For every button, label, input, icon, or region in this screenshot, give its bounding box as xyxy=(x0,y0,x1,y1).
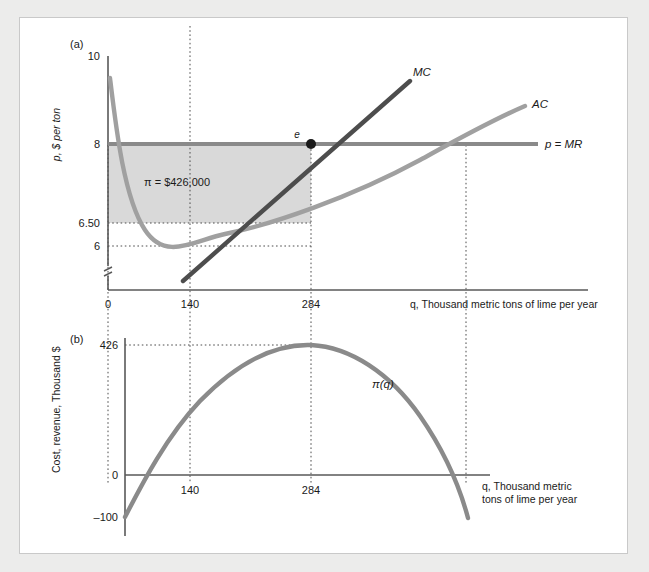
panel-a-xtick-140: 140 xyxy=(181,298,199,310)
price-mr-label: p = MR xyxy=(544,138,582,150)
panel-a-ytick-650: 6.50 xyxy=(79,217,100,229)
panel-b-x-axis-title-line2: tons of lime per year xyxy=(482,493,578,505)
equilibrium-point-label: e xyxy=(294,129,300,140)
panel-b: (b) Cost, revenue, Thousand $ 426 0 –100… xyxy=(50,333,578,536)
panel-a-xtick-0: 0 xyxy=(105,298,111,310)
panel-a-y-axis-title: p, $ per ton xyxy=(50,108,62,162)
equilibrium-point-marker xyxy=(306,139,316,149)
panel-b-ytick-426: 426 xyxy=(100,339,118,351)
panel-a-ytick-8: 8 xyxy=(94,138,100,150)
panel-a-ytick-6: 6 xyxy=(94,240,100,252)
panel-b-letter: (b) xyxy=(70,333,83,345)
profit-annotation: π = $426,000 xyxy=(144,176,210,188)
horizontal-guide-lines xyxy=(108,223,311,246)
mc-curve-label: MC xyxy=(413,66,432,78)
economics-figure: e (a) p, $ per ton 10 8 6.50 6 0 140 284… xyxy=(20,18,627,553)
ac-curve-label: AC xyxy=(531,98,549,110)
panel-b-x-axis-title-line1: q, Thousand metric xyxy=(482,480,572,492)
panel-b-ytick-0: 0 xyxy=(112,469,118,481)
panel-b-xtick-284: 284 xyxy=(302,484,320,496)
panel-a-x-axis-title: q, Thousand metric tons of lime per year xyxy=(410,298,598,310)
panel-b-xtick-140: 140 xyxy=(181,484,199,496)
panel-a-letter: (a) xyxy=(70,38,83,50)
panel-a-xtick-284: 284 xyxy=(302,298,320,310)
panel-b-ytick-neg100: –100 xyxy=(94,511,118,523)
panel-b-y-axis-title: Cost, revenue, Thousand $ xyxy=(50,346,62,473)
panel-a-ytick-10: 10 xyxy=(88,50,100,62)
panel-a: e (a) p, $ per ton 10 8 6.50 6 0 140 284… xyxy=(50,26,598,483)
vertical-guide-lines xyxy=(108,26,466,483)
figure-card: e (a) p, $ per ton 10 8 6.50 6 0 140 284… xyxy=(19,17,628,554)
profit-curve-label: π(q) xyxy=(372,378,394,390)
profit-curve xyxy=(125,345,468,518)
